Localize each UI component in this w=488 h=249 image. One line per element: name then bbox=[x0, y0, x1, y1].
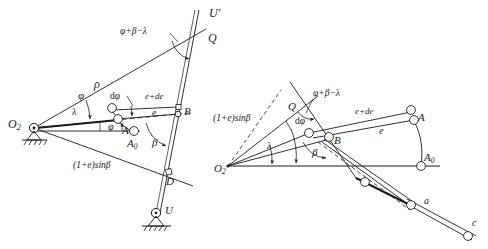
left-line-crank-o2-a bbox=[36, 120, 118, 128]
left-label-o2: O2 bbox=[8, 118, 21, 132]
left-label-rho: ρ bbox=[94, 78, 100, 90]
left-ground-hatch-o2 bbox=[24, 140, 47, 145]
right-label-a-lower: a bbox=[424, 196, 429, 206]
right-label-lambda: λ bbox=[267, 141, 271, 151]
right-label-c: c bbox=[472, 218, 476, 228]
left-label-u-prime: U′ bbox=[209, 7, 220, 19]
left-label-one-plus-e-sin-beta: (1+e)sinβ bbox=[73, 161, 111, 171]
left-pivot-o2-dot bbox=[33, 127, 36, 130]
right-leader-dphi bbox=[286, 121, 291, 130]
right-diagram-group bbox=[226, 82, 476, 240]
left-label-u: U bbox=[165, 205, 173, 216]
left-label-d: D bbox=[166, 176, 174, 187]
left-label-phi-beta-lambda: φ+β−λ bbox=[120, 27, 147, 37]
right-line-lower-link-2 bbox=[324, 139, 416, 204]
left-line-rod-ap-bp bbox=[113, 107, 178, 110]
left-diagram-group bbox=[22, 10, 206, 231]
right-line-lower-extend bbox=[405, 203, 472, 240]
right-label-b: B bbox=[334, 135, 341, 146]
right-label-dphi: dφ bbox=[295, 117, 305, 127]
right-label-one-plus-e-sin-beta: (1+e)sinβ bbox=[213, 114, 251, 124]
left-joint-a0 bbox=[130, 127, 139, 136]
right-line-o2-q bbox=[228, 96, 318, 166]
left-joint-a bbox=[114, 115, 123, 124]
left-label-e-plus-de: e+de bbox=[145, 92, 164, 101]
left-label-a: A bbox=[122, 125, 129, 136]
left-label-q: Q bbox=[208, 32, 217, 44]
right-label-o2: O2 bbox=[214, 163, 226, 175]
right-label-phi-beta-lambda: φ+β−λ bbox=[313, 89, 340, 99]
left-leader-dphi bbox=[127, 96, 133, 106]
left-label-phi-lower: φ bbox=[108, 122, 114, 132]
left-leader-phi-beta-lambda bbox=[170, 33, 178, 42]
right-joint-b bbox=[325, 133, 334, 142]
left-label-e: e bbox=[152, 108, 156, 118]
right-line-lower-extend-2 bbox=[407, 199, 476, 236]
right-pivot-o2-dot bbox=[226, 164, 229, 167]
left-marker-b-prime bbox=[176, 105, 181, 110]
left-label-a0: A0 bbox=[127, 138, 137, 150]
left-ground-hatch-u bbox=[144, 226, 167, 231]
right-label-beta: β bbox=[312, 147, 317, 158]
right-joint-b-prime bbox=[305, 129, 314, 138]
right-joint-lower-1 bbox=[361, 178, 370, 187]
right-line-lower-link-dashed bbox=[318, 142, 410, 210]
diagram-vector-layer bbox=[0, 0, 488, 249]
right-label-a: A bbox=[418, 112, 425, 123]
left-arc-dphi bbox=[131, 106, 132, 116]
right-joint-a-prime bbox=[407, 106, 416, 115]
left-label-dphi: ddφφ bbox=[110, 92, 120, 102]
right-joint-a-lower bbox=[407, 201, 416, 210]
right-label-q: Q bbox=[288, 101, 296, 112]
right-label-e: e bbox=[379, 126, 383, 136]
left-label-beta: β bbox=[152, 137, 157, 148]
right-line-lower-link bbox=[322, 142, 412, 207]
right-line-dashed-upper bbox=[228, 90, 281, 166]
right-arc-dphi bbox=[291, 129, 296, 163]
right-joint-c bbox=[464, 232, 473, 241]
right-arc-a-to-a0 bbox=[414, 121, 422, 165]
left-joint-b bbox=[175, 111, 181, 117]
left-label-lambda: λ bbox=[72, 107, 76, 117]
right-label-a0: A0 bbox=[424, 152, 434, 164]
left-label-b: B bbox=[184, 106, 191, 117]
figure-canvas: O2 ρ φ+β−λ U′ Q B A A0 D U e+de e φ φ dd… bbox=[0, 0, 488, 249]
left-line-rod-a-b bbox=[118, 114, 178, 119]
right-label-e-plus-de: e+de bbox=[355, 107, 374, 116]
left-pivot-u-dot bbox=[155, 212, 158, 215]
left-arc-lambda bbox=[86, 100, 90, 119]
left-joint-a-prime bbox=[108, 104, 117, 113]
left-label-phi-upper: φ bbox=[78, 90, 84, 101]
